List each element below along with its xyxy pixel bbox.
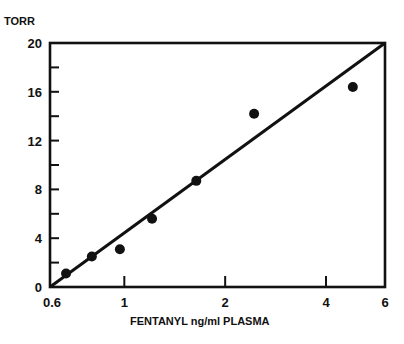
data-point: [249, 109, 259, 119]
data-point: [61, 269, 71, 279]
chart: 048121620 0.61246 TORR FENTANYL ng/ml PL…: [0, 0, 404, 344]
data-points: [61, 82, 358, 279]
y-tick-label: 16: [28, 85, 42, 100]
data-point: [348, 82, 358, 92]
y-tick-label: 20: [28, 36, 42, 51]
x-tick-label: 6: [381, 295, 388, 310]
x-axis-ticks: 0.61246: [43, 276, 389, 310]
x-tick-label: 1: [121, 295, 128, 310]
y-tick-label: 12: [28, 134, 42, 149]
x-tick-label: 0.6: [43, 295, 61, 310]
fit-line: [50, 43, 385, 287]
y-tick-label: 4: [35, 231, 43, 246]
x-tick-label: 4: [322, 295, 330, 310]
y-tick-label: 0: [35, 280, 42, 295]
regression-line: [50, 43, 385, 287]
y-tick-label: 8: [35, 182, 42, 197]
y-axis-ticks: 048121620: [28, 36, 59, 295]
x-axis-title: FENTANYL ng/ml PLASMA: [130, 315, 270, 327]
y-axis-title: TORR: [4, 15, 35, 27]
data-point: [87, 252, 97, 262]
data-point: [115, 244, 125, 254]
data-point: [191, 176, 201, 186]
data-point: [147, 214, 157, 224]
x-tick-label: 2: [222, 295, 229, 310]
